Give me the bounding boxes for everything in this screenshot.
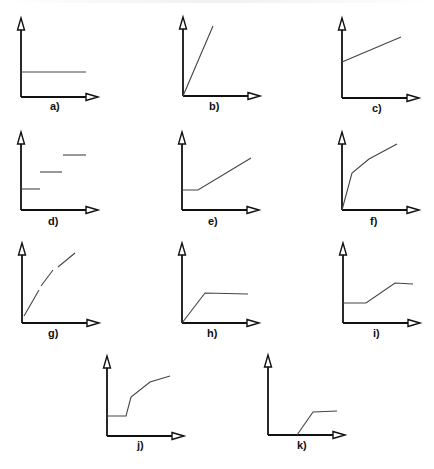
graph-label: a) <box>50 100 60 112</box>
y-arrow-icon <box>104 356 111 368</box>
graphs-canvas: a)b)c)d)e)f)g)h)i)j)k) <box>0 0 434 469</box>
graph-curve <box>182 293 248 323</box>
graph-label: e) <box>208 215 218 227</box>
graph-i: i) <box>340 243 421 339</box>
graph-e: e) <box>179 132 260 227</box>
graph-curve <box>24 290 39 316</box>
y-arrow-icon <box>179 243 186 255</box>
graph-label: b) <box>209 100 220 112</box>
graph-label: c) <box>372 102 382 114</box>
graph-label: g) <box>48 327 59 339</box>
x-arrow-icon <box>333 432 345 439</box>
x-arrow-icon <box>86 207 98 214</box>
graph-b: b) <box>180 17 261 112</box>
graph-curve <box>182 158 251 190</box>
graph-g: g) <box>19 243 100 339</box>
graph-f: f) <box>339 132 420 227</box>
x-arrow-icon <box>407 207 419 214</box>
graph-k: k) <box>265 355 346 451</box>
y-arrow-icon <box>339 18 346 30</box>
x-arrow-icon <box>86 94 98 101</box>
y-arrow-icon <box>179 132 186 144</box>
graph-curve <box>297 411 337 435</box>
x-arrow-icon <box>247 320 259 327</box>
y-arrow-icon <box>18 132 25 144</box>
y-arrow-icon <box>18 18 25 30</box>
graph-curve <box>342 144 397 210</box>
graph-d: d) <box>18 132 99 227</box>
x-arrow-icon <box>248 93 260 100</box>
graph-label: h) <box>207 327 218 339</box>
graph-label: f) <box>370 215 378 227</box>
y-arrow-icon <box>265 355 272 367</box>
x-arrow-icon <box>247 207 259 214</box>
x-arrow-icon <box>408 320 420 327</box>
y-arrow-icon <box>180 17 187 29</box>
y-arrow-icon <box>19 243 26 255</box>
graph-curve <box>41 270 53 286</box>
graph-c: c) <box>339 18 420 114</box>
graph-h: h) <box>179 243 260 339</box>
graph-label: j) <box>136 439 144 451</box>
y-arrow-icon <box>340 243 347 255</box>
graph-label: k) <box>297 439 307 451</box>
graph-label: d) <box>48 215 59 227</box>
x-arrow-icon <box>407 95 419 102</box>
graph-curve <box>343 283 413 303</box>
x-arrow-icon <box>172 433 184 440</box>
graph-label: i) <box>373 327 380 339</box>
graph-j: j) <box>104 356 185 451</box>
y-arrow-icon <box>339 132 346 144</box>
graph-curve <box>342 37 401 62</box>
graph-curve <box>58 253 75 267</box>
graph-a: a) <box>18 18 99 112</box>
graph-curve <box>183 26 213 96</box>
graph-curve <box>107 376 170 416</box>
x-arrow-icon <box>87 320 99 327</box>
